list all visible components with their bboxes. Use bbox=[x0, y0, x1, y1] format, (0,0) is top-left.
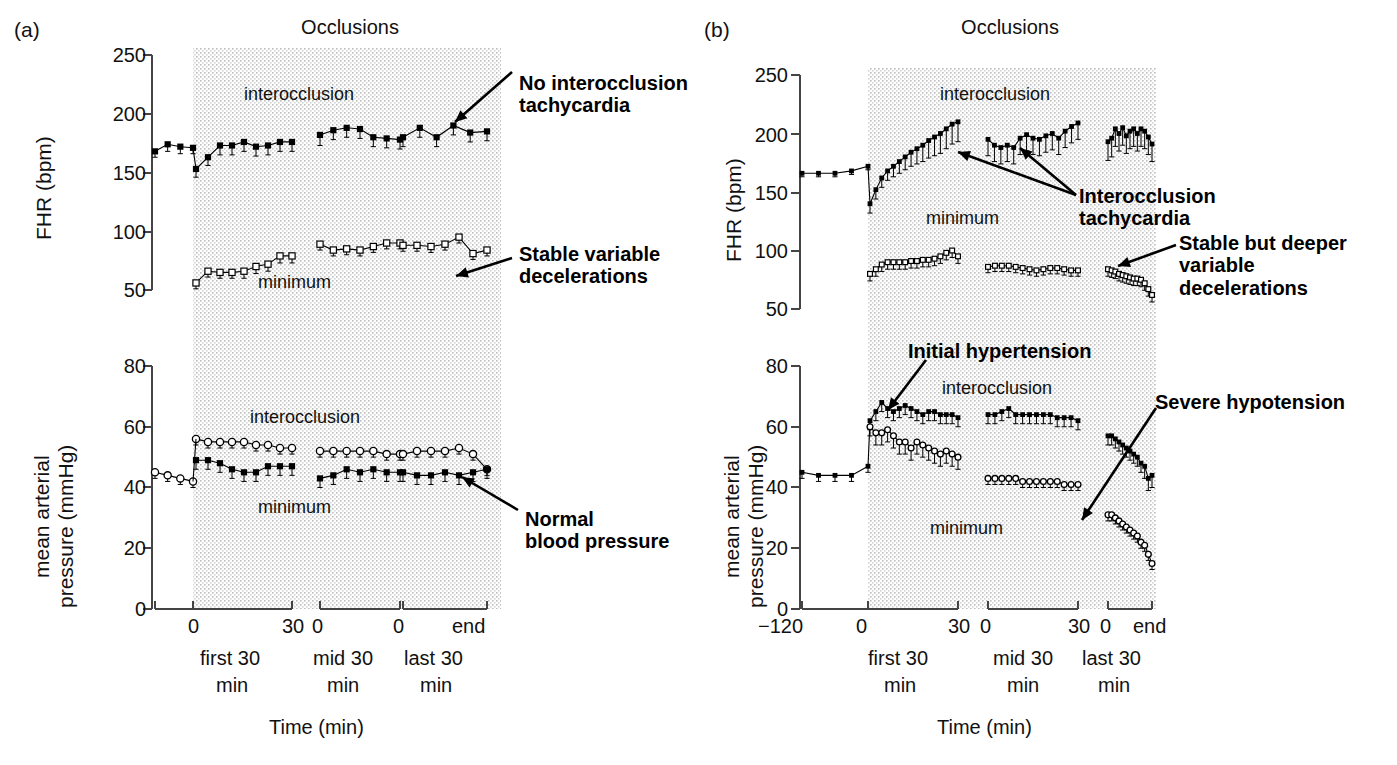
panel-a-fhr-label-minimum: minimum bbox=[258, 272, 331, 293]
panel-b-seg-mid30-min: min bbox=[1007, 674, 1039, 697]
panel-a-xtick-0b: 0 bbox=[312, 615, 323, 638]
panel-a-xtick-end: end bbox=[452, 615, 485, 638]
panel-b-seg-first30-min: min bbox=[884, 674, 916, 697]
annot-line: Interocclusion bbox=[1079, 185, 1216, 207]
panel-b-annotation-stable-deeper: Stable but deeper variable decelerations bbox=[1179, 232, 1347, 299]
panel-b-seg-last30: last 30 bbox=[1082, 647, 1141, 670]
panel-a-map-ylabel-line1: mean arterial bbox=[30, 455, 54, 578]
panel-a-ytick-50: 50 bbox=[104, 279, 146, 302]
panel-a-xtick-0c: 0 bbox=[393, 615, 404, 638]
panel-a-letter: (a) bbox=[14, 18, 40, 42]
panel-a-annotation-no-tachycardia: No interocclusion tachycardia bbox=[519, 72, 688, 117]
annot-line: tachycardia bbox=[1079, 207, 1216, 229]
annot-line: No interocclusion bbox=[519, 72, 688, 94]
panel-b-map-label-interocclusion: interocclusion bbox=[942, 378, 1052, 399]
panel-a-ytick-150: 150 bbox=[104, 162, 146, 185]
annot-line: blood pressure bbox=[525, 530, 669, 552]
panel-b-seg-mid30: mid 30 bbox=[993, 647, 1053, 670]
panel-a-seg-mid30: mid 30 bbox=[313, 647, 373, 670]
panel-b-fhr-label-minimum: minimum bbox=[926, 208, 999, 229]
annot-line: decelerations bbox=[1179, 277, 1347, 299]
panel-b-xtick-end: end bbox=[1133, 615, 1166, 638]
panel-b-ytick-50: 50 bbox=[746, 298, 788, 321]
panel-b-fhr-label-interocclusion: interocclusion bbox=[940, 84, 1050, 105]
panel-b-ytick-100: 100 bbox=[746, 240, 788, 263]
panel-b-xtick-0b: 0 bbox=[980, 615, 991, 638]
panel-b-xlabel: Time (min) bbox=[937, 716, 1032, 739]
panel-a-seg-first30: first 30 bbox=[200, 647, 260, 670]
panel-a-ytick-100: 100 bbox=[104, 221, 146, 244]
panel-b-map-ytick-60: 60 bbox=[746, 416, 788, 439]
panel-b-xtick-0a: 0 bbox=[856, 615, 867, 638]
panel-a-annotation-normal-bp: Normal blood pressure bbox=[525, 508, 669, 553]
panel-b-annotation-severe-hypotension: Severe hypotension bbox=[1155, 391, 1345, 413]
panel-a-map-ytick-40: 40 bbox=[104, 476, 146, 499]
panel-a-map-ylabel-line2: pressure (mmHg) bbox=[54, 445, 78, 608]
panel-a-xtick-30a: 30 bbox=[282, 615, 304, 638]
panel-a-seg-last30-min: min bbox=[420, 674, 452, 697]
panel-a-annotation-stable-variable: Stable variable decelerations bbox=[519, 243, 660, 288]
panel-a-seg-first30-min: min bbox=[216, 674, 248, 697]
panel-b-seg-last30-min: min bbox=[1098, 674, 1130, 697]
panel-b-map-ytick-20: 20 bbox=[746, 537, 788, 560]
panel-a-fhr-ylabel: FHR (bpm) bbox=[32, 136, 56, 240]
panel-b-ytick-250: 250 bbox=[746, 64, 788, 87]
panel-b-ytick-200: 200 bbox=[746, 124, 788, 147]
panel-b-xtick-30a: 30 bbox=[948, 615, 970, 638]
panel-b-annotation-interocclusion-tachycardia: Interocclusion tachycardia bbox=[1079, 185, 1216, 230]
annot-line: Normal bbox=[525, 508, 669, 530]
annot-line: Stable variable bbox=[519, 243, 660, 265]
panel-a-seg-mid30-min: min bbox=[327, 674, 359, 697]
panel-a-occlusions-title: Occlusions bbox=[200, 16, 500, 39]
annot-line: tachycardia bbox=[519, 94, 688, 116]
panel-a-map-ytick-80: 80 bbox=[104, 355, 146, 378]
figure-root: (a) Occlusions FHR (bpm) mean arterial p… bbox=[0, 0, 1397, 765]
panel-a-map-ytick-60: 60 bbox=[104, 416, 146, 439]
panel-b-fhr-ylabel: FHR (bpm) bbox=[722, 158, 746, 262]
panel-b-xtick-30b: 30 bbox=[1068, 615, 1090, 638]
panel-b: (b) Occlusions FHR (bpm) mean arterial p… bbox=[690, 0, 1397, 765]
panel-b-ytick-150: 150 bbox=[746, 182, 788, 205]
panel-b-annotation-initial-hypertension: Initial hypertension bbox=[908, 340, 1091, 362]
panel-b-map-ylabel-line2: pressure (mmHg) bbox=[744, 445, 768, 608]
panel-a-xlabel: Time (min) bbox=[269, 716, 364, 739]
panel-b-seg-first30: first 30 bbox=[868, 647, 928, 670]
panel-b-map-ylabel-line1: mean arterial bbox=[720, 455, 744, 578]
panel-b-map-label-minimum: minimum bbox=[930, 518, 1003, 539]
panel-a-ytick-200: 200 bbox=[104, 103, 146, 126]
panel-b-map-ytick-40: 40 bbox=[746, 476, 788, 499]
annot-line: Stable but deeper bbox=[1179, 232, 1347, 254]
panel-a-xtick-0a: 0 bbox=[188, 615, 199, 638]
panel-a: (a) Occlusions FHR (bpm) mean arterial p… bbox=[0, 0, 690, 765]
panel-b-letter: (b) bbox=[704, 18, 730, 42]
panel-a-map-label-minimum: minimum bbox=[258, 497, 331, 518]
panel-a-ytick-250: 250 bbox=[104, 44, 146, 67]
panel-a-map-ytick-20: 20 bbox=[104, 537, 146, 560]
panel-a-seg-last30: last 30 bbox=[404, 647, 463, 670]
annot-line: variable bbox=[1179, 254, 1347, 276]
panel-a-map-label-interocclusion: interocclusion bbox=[250, 407, 360, 428]
panel-b-map-ytick-80: 80 bbox=[746, 355, 788, 378]
panel-a-fhr-label-interocclusion: interocclusion bbox=[244, 84, 354, 105]
panel-b-occlusions-title: Occlusions bbox=[860, 16, 1160, 39]
panel-b-xtick-0c: 0 bbox=[1100, 615, 1111, 638]
panel-a-map-ytick-0: 0 bbox=[104, 598, 146, 621]
panel-b-xtick-m120: −120 bbox=[758, 615, 803, 638]
annot-line: decelerations bbox=[519, 265, 660, 287]
